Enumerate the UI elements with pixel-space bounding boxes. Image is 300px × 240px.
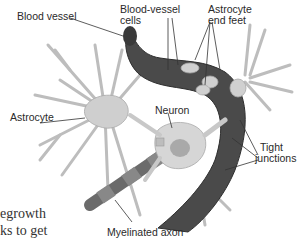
label-astrocyte: Astrocyte: [10, 112, 54, 123]
label-neuron: Neuron: [155, 105, 189, 116]
astrocyte-body: [84, 95, 128, 128]
label-myelinated-axon: Myelinated axon: [107, 227, 183, 238]
body-text-line1: egrowth: [0, 205, 46, 222]
blood-vessel-end: [123, 26, 137, 46]
label-blood-vessel-cells-line2: cells: [120, 15, 141, 26]
diagram: Blood vessel Blood-vessel cells Astrocyt…: [0, 0, 300, 240]
label-astrocyte-end-feet-line2: end feet: [208, 15, 246, 26]
astrocyte-processes: [35, 45, 140, 215]
label-blood-vessel: Blood vessel: [17, 11, 77, 22]
label-tight-junctions-line2: junctions: [255, 153, 296, 164]
body-text-line2: ks to get: [0, 222, 47, 239]
